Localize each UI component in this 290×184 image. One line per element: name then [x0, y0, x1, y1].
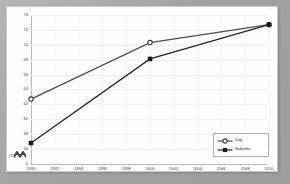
vertical-gridline [269, 15, 270, 149]
x-axis-tick-label: 2006 [217, 167, 226, 171]
y-axis-tick-label: 62 [24, 102, 28, 106]
legend-item-city[interactable]: City [217, 136, 266, 145]
series-line-city [31, 25, 269, 99]
legend-marker-filled-square-icon [217, 146, 233, 154]
y-axis-unit-label: (%) [9, 154, 15, 158]
y-axis-zero-label: 0 [7, 162, 28, 166]
chart-legend: City Suburbs [213, 133, 269, 157]
data-point-marker-suburbs[interactable] [267, 22, 272, 27]
y-axis-tick-label: 60 [24, 117, 28, 121]
x-axis-tick-label: 1996 [98, 167, 107, 171]
axis-break-zigzag-icon [13, 151, 29, 159]
y-axis-tick-label: 66 [24, 72, 28, 76]
series-layer [31, 15, 269, 149]
y-axis-tick-label: 64 [24, 87, 28, 91]
screenshot-root: 74727068666462605856 0 (%) 1990199219941… [0, 0, 290, 184]
x-axis-tick-label: 2002 [169, 167, 178, 171]
plot-area [31, 15, 269, 149]
y-axis-tick-label: 70 [24, 43, 28, 47]
x-axis-tick-label: 2008 [241, 167, 250, 171]
legend-item-suburbs[interactable]: Suburbs [217, 145, 266, 154]
data-point-marker-suburbs[interactable] [148, 57, 153, 62]
chart-card: 74727068666462605856 0 (%) 1990199219941… [6, 6, 278, 172]
y-axis-tick-label: 58 [24, 132, 28, 136]
legend-marker-open-circle-icon [217, 137, 233, 145]
x-axis-tick-label: 2000 [146, 167, 155, 171]
data-point-marker-suburbs[interactable] [29, 141, 34, 146]
x-axis-tick-label: 1998 [122, 167, 131, 171]
x-axis-tick-label: 1990 [27, 167, 36, 171]
legend-label-suburbs: Suburbs [235, 147, 251, 151]
x-axis-tick-label: 1992 [50, 167, 59, 171]
x-axis-line [31, 164, 267, 165]
y-axis-tick-label: 72 [24, 28, 28, 32]
y-axis-tick-label: 68 [24, 58, 28, 62]
x-axis-tick-label: 1994 [74, 167, 83, 171]
legend-label-city: City [235, 138, 242, 142]
data-point-marker-city[interactable] [29, 97, 33, 101]
y-axis-tick-labels: 74727068666462605856 [7, 15, 28, 149]
x-axis-tick-label: 2004 [193, 167, 202, 171]
data-point-marker-city[interactable] [148, 40, 152, 44]
x-axis-tick-label: 2010 [265, 167, 274, 171]
x-axis-tick-labels: 1990199219941996199820002002200420062008… [31, 167, 269, 177]
y-axis-tick-label: 74 [24, 13, 28, 17]
